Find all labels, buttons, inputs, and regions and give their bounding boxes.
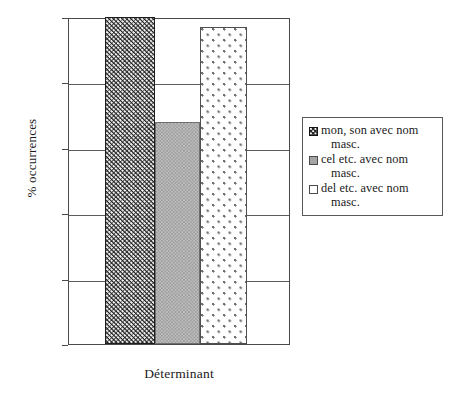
legend-swatch-dark-dotted-icon <box>309 127 318 136</box>
legend-item-mon-son: mon, son avec nommasc. <box>309 123 437 152</box>
bar-cel-etc-avec-nom-masc <box>155 122 200 344</box>
legend-swatch-solid-gray-icon <box>309 156 318 165</box>
legend-item-del-etc: del etc. avec nommasc. <box>309 181 437 210</box>
gridline-80 <box>69 84 289 85</box>
legend-label-line1: cel etc. avec nom <box>321 152 408 166</box>
bar-del-etc-avec-nom-masc <box>200 27 247 344</box>
legend-label-line1: del etc. avec nom <box>321 181 409 195</box>
legend-label-del-etc: del etc. avec nommasc. <box>321 181 409 210</box>
legend-label-line2: masc. <box>321 195 409 209</box>
legend-label-mon-son: mon, son avec nommasc. <box>321 123 418 152</box>
plot-area <box>68 18 290 345</box>
y-tick-mark-0 <box>62 345 68 346</box>
legend-label-line2: masc. <box>321 137 418 151</box>
legend-item-cel-etc: cel etc. avec nommasc. <box>309 152 437 181</box>
legend: mon, son avec nommasc. cel etc. avec nom… <box>302 117 443 216</box>
bar-mon-son-avec-nom-masc <box>105 17 155 344</box>
x-axis-label: Déterminant <box>68 366 290 382</box>
legend-label-line2: masc. <box>321 166 408 180</box>
legend-label-line1: mon, son avec nom <box>321 123 418 137</box>
legend-label-cel-etc: cel etc. avec nommasc. <box>321 152 408 181</box>
bar-chart-figure: % occurrences 100 80 60 40 20 0 Détermin… <box>0 0 467 396</box>
y-axis-label: % occurrences <box>24 68 40 248</box>
legend-swatch-white-dotted-icon <box>309 185 318 194</box>
